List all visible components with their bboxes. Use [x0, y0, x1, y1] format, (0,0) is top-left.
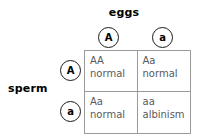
sperm-gamete-circle-2: a [60, 101, 81, 122]
punnett-cell: aa albinism [138, 92, 191, 133]
sperm-axis-label: sperm [8, 82, 48, 95]
cell-genotype: Aa [143, 55, 191, 68]
cell-phenotype: normal [90, 68, 137, 81]
cell-phenotype: normal [143, 68, 191, 81]
punnett-grid: AA normal Aa normal Aa normal aa albinis… [84, 50, 191, 134]
sperm-gamete-label-1: A [67, 66, 75, 76]
punnett-square-diagram: eggs sperm A a A a AA normal Aa normal A… [0, 0, 204, 139]
punnett-cell: Aa normal [85, 92, 138, 133]
punnett-cell: AA normal [85, 51, 138, 92]
egg-gamete-circle-1: A [98, 27, 119, 48]
punnett-cell: Aa normal [138, 51, 191, 92]
cell-genotype: aa [143, 96, 191, 109]
sperm-gamete-circle-1: A [60, 60, 81, 81]
cell-genotype: Aa [90, 96, 137, 109]
cell-genotype: AA [90, 55, 137, 68]
egg-gamete-circle-2: a [152, 27, 173, 48]
cell-phenotype: normal [90, 109, 137, 122]
egg-gamete-label-2: a [159, 33, 166, 43]
cell-phenotype: albinism [143, 109, 191, 122]
egg-gamete-label-1: A [105, 33, 113, 43]
sperm-gamete-label-2: a [67, 107, 74, 117]
eggs-axis-label: eggs [0, 6, 204, 19]
